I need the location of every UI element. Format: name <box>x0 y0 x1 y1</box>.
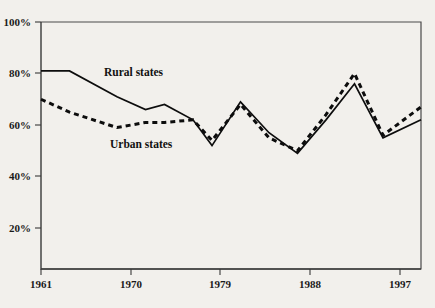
chart-container: 100% 80% 60% 40% 20% 1961 1970 1979 1988… <box>0 0 435 308</box>
x-tick-label-1997: 1997 <box>389 278 412 290</box>
x-tick-label-1979: 1979 <box>209 278 232 290</box>
y-tick-label-60: 60% <box>9 119 31 131</box>
y-tick-label-100: 100% <box>4 16 32 28</box>
y-tick-label-80: 80% <box>9 67 31 79</box>
y-tick-label-40: 40% <box>9 170 31 182</box>
series-annotation-urban: Urban states <box>110 138 173 150</box>
y-tick-label-20: 20% <box>9 222 31 234</box>
x-tick-label-1961: 1961 <box>30 278 52 290</box>
x-tick-label-1988: 1988 <box>299 278 322 290</box>
chart-background <box>0 0 435 308</box>
x-tick-label-1970: 1970 <box>120 278 143 290</box>
line-chart: 100% 80% 60% 40% 20% 1961 1970 1979 1988… <box>0 0 435 308</box>
series-annotation-rural: Rural states <box>104 66 164 78</box>
